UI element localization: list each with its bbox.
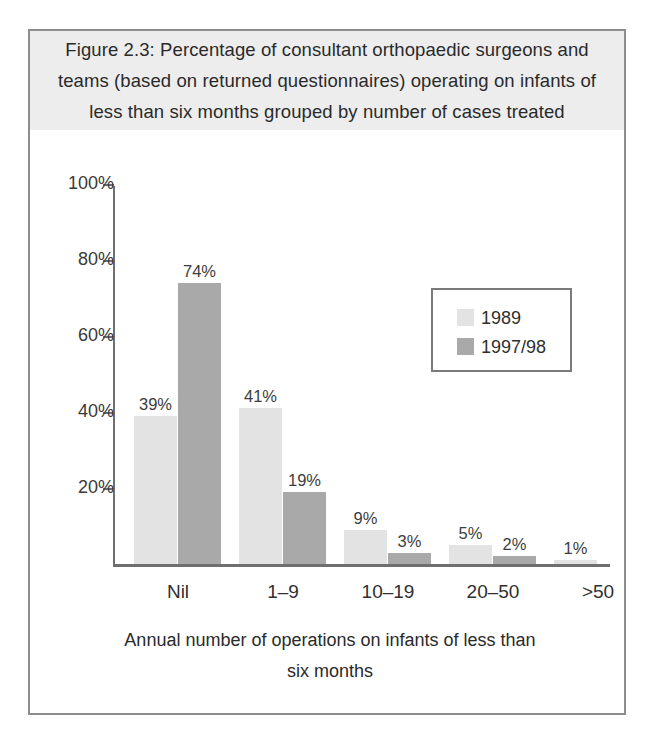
bar-slot: 19% — [283, 184, 326, 564]
x-axis-caption: Annual number of operations on infants o… — [90, 625, 570, 687]
x-axis-label: 10–19 — [333, 581, 443, 603]
bar-slot: 39% — [134, 184, 177, 564]
bar-value-label: 5% — [459, 524, 483, 543]
figure-title-band: Figure 2.3: Percentage of consultant ort… — [30, 31, 624, 130]
bar-group: 41%19% — [239, 184, 327, 564]
x-axis-label: Nil — [123, 581, 233, 603]
bar-slot: 74% — [178, 184, 221, 564]
x-axis-label: 20–50 — [438, 581, 548, 603]
bar-group: 9%3% — [344, 184, 432, 564]
legend-item: 1997/98 — [457, 332, 570, 361]
bar — [449, 545, 492, 564]
bar-value-label: 41% — [244, 387, 277, 406]
x-axis-caption-line-2: six months — [90, 656, 570, 687]
bar-slot: 1% — [554, 184, 597, 564]
bar-slot: 5% — [449, 184, 492, 564]
chart-legend: 19891997/98 — [431, 288, 572, 372]
bar-group: 39%74% — [134, 184, 222, 564]
bar-slot: 41% — [239, 184, 282, 564]
bar-value-label: 9% — [354, 509, 378, 528]
figure-title: Figure 2.3: Percentage of consultant ort… — [51, 34, 603, 127]
x-axis-caption-line-1: Annual number of operations on infants o… — [90, 625, 570, 656]
bar-value-label: 1% — [564, 539, 588, 558]
bar — [344, 530, 387, 564]
bar-slot: 9% — [344, 184, 387, 564]
bar — [283, 492, 326, 564]
legend-swatch — [457, 338, 474, 355]
x-axis-label: 1–9 — [228, 581, 338, 603]
legend-swatch — [457, 309, 474, 326]
figure-container: Figure 2.3: Percentage of consultant ort… — [28, 29, 626, 715]
bar — [134, 416, 177, 564]
bar — [178, 283, 221, 564]
bar-value-label: 39% — [139, 395, 172, 414]
bar — [554, 560, 597, 564]
bar — [239, 408, 282, 564]
bar-value-label: 19% — [288, 471, 321, 490]
bar-slot: 2% — [493, 184, 536, 564]
bar-value-label: 2% — [503, 535, 527, 554]
bar — [493, 556, 536, 564]
bar-value-label: 3% — [398, 532, 422, 551]
legend-item: 1989 — [457, 303, 570, 332]
bar-slot: 3% — [388, 184, 431, 564]
legend-label: 1997/98 — [481, 338, 546, 356]
bar — [388, 553, 431, 564]
x-axis-label: >50 — [543, 581, 653, 603]
bar-group: 5%2% — [449, 184, 537, 564]
bar-group: 1% — [554, 184, 642, 564]
plot-area: 100%80%60%40%20% 39%74%41%19%9%3%5%2%1% … — [30, 130, 624, 717]
bar-value-label: 74% — [183, 262, 216, 281]
legend-label: 1989 — [481, 309, 521, 327]
